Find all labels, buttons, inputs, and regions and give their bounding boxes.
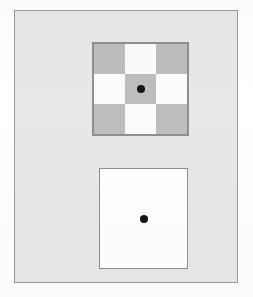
checker-cell-r2c3	[156, 74, 187, 104]
checker-cell-r1c3	[156, 44, 187, 74]
checkerboard-stimulus	[92, 42, 189, 136]
checker-cell-r3c1	[94, 104, 125, 134]
checker-cell-r3c3	[156, 104, 187, 134]
outer-frame-panel	[14, 10, 238, 283]
plain-square-stimulus	[99, 168, 188, 269]
figure-canvas	[0, 0, 253, 297]
checkerboard-fixation-dot	[137, 85, 145, 93]
checker-cell-r2c1	[94, 74, 125, 104]
checker-cell-r3c2	[125, 104, 156, 134]
checker-cell-r1c1	[94, 44, 125, 74]
checker-cell-r1c2	[125, 44, 156, 74]
plain-square-fixation-dot	[140, 215, 148, 223]
